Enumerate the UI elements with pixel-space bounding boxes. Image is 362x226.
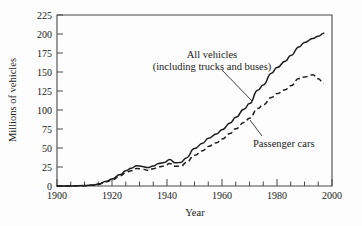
x-tick-label: 1960 (212, 190, 232, 201)
y-axis-title: Millions of vehicles (7, 58, 18, 142)
annotation-all-vehicles-line2: (including trucks and buses) (153, 61, 272, 73)
y-tick-label: 175 (37, 48, 52, 59)
y-tick-label: 75 (42, 124, 52, 135)
annotation-passenger-cars: Passenger cars (253, 138, 315, 149)
y-tick-label: 150 (37, 67, 52, 78)
y-tick-label: 25 (42, 162, 52, 173)
y-tick-label: 200 (37, 29, 52, 40)
x-tick-label: 2000 (322, 190, 342, 201)
x-tick-label: 1900 (47, 190, 67, 201)
vehicles-line-chart: 0255075100125150175200225 19001920194019… (0, 0, 362, 226)
y-tick-label: 50 (42, 143, 52, 154)
y-tick-label: 100 (37, 105, 52, 116)
y-tick-label: 225 (37, 10, 52, 21)
x-tick-label: 1980 (267, 190, 287, 201)
y-tick-label: 125 (37, 86, 52, 97)
annotation-all-vehicles-line1: All vehicles (187, 49, 237, 60)
annotation-passenger-cars-line1: Passenger cars (253, 138, 315, 149)
x-tick-label: 1940 (157, 190, 177, 201)
x-tick-label: 1920 (102, 190, 122, 201)
chart-figure: 0255075100125150175200225 19001920194019… (0, 0, 362, 226)
x-axis-title: Year (185, 207, 205, 218)
